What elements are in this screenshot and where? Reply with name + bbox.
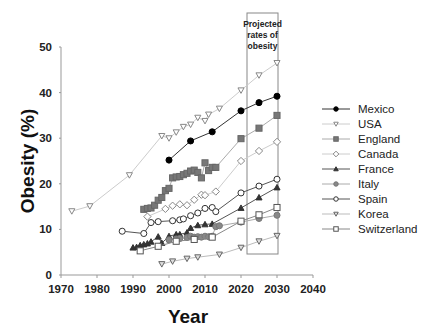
- marker-open-circle-icon: [238, 190, 244, 196]
- marker-open-square-icon: [137, 248, 143, 254]
- y-tick-label: 40: [39, 87, 52, 99]
- marker-open-diamond-icon: [255, 147, 262, 154]
- x-tick-label: 2020: [228, 283, 254, 295]
- marker-open-diamond-icon: [162, 205, 169, 212]
- marker-filled-circle-icon: [166, 157, 172, 163]
- marker-open-square-icon: [238, 218, 244, 224]
- marker-filled-triangle-icon: [148, 239, 154, 244]
- marker-open-circle-icon: [180, 216, 186, 222]
- marker-open-circle-icon: [202, 205, 208, 211]
- series-usa: [69, 61, 280, 215]
- marker-filled-circle-icon: [209, 129, 215, 135]
- y-tick-label: 0: [46, 269, 52, 281]
- marker-grey-circle-icon: [274, 212, 280, 218]
- legend: MexicoUSAEnglandCanadaFranceItalySpainKo…: [322, 103, 417, 235]
- marker-filled-circle-icon: [334, 107, 338, 111]
- legend-item-france: France: [322, 163, 394, 175]
- series-layer: [69, 61, 281, 268]
- x-axis-title: Year: [168, 306, 209, 327]
- marker-open-circle-icon: [274, 176, 280, 182]
- x-tick-label: 2030: [264, 283, 290, 295]
- marker-open-diamond-icon: [273, 138, 280, 145]
- marker-filled-square-icon: [213, 164, 219, 170]
- marker-grey-triangle-down-icon: [159, 262, 165, 267]
- x-tick-label: 2010: [192, 283, 218, 295]
- marker-filled-square-icon: [198, 175, 204, 181]
- marker-filled-triangle-icon: [334, 167, 338, 171]
- marker-filled-square-icon: [159, 194, 165, 200]
- legend-item-england: England: [322, 133, 400, 145]
- marker-grey-circle-icon: [216, 223, 222, 229]
- marker-open-diamond-icon: [169, 202, 176, 209]
- y-tick-label: 20: [39, 178, 52, 190]
- marker-filled-triangle-icon: [274, 184, 280, 189]
- legend-item-mexico: Mexico: [322, 103, 394, 115]
- marker-open-diamond-icon: [333, 151, 339, 157]
- marker-filled-circle-icon: [238, 108, 244, 114]
- marker-open-circle-icon: [256, 183, 262, 189]
- legend-label: Korea: [358, 208, 389, 220]
- marker-filled-triangle-icon: [238, 205, 244, 210]
- marker-filled-square-icon: [238, 136, 244, 142]
- marker-filled-square-icon: [202, 160, 208, 166]
- projected-label-line3: obesity: [248, 41, 278, 51]
- y-tick-label: 50: [39, 41, 52, 53]
- marker-open-circle-icon: [170, 218, 176, 224]
- marker-open-circle-icon: [195, 210, 201, 216]
- marker-open-triangle-down-icon: [202, 118, 208, 123]
- marker-open-square-icon: [334, 227, 338, 231]
- marker-filled-circle-icon: [188, 138, 194, 144]
- marker-filled-square-icon: [274, 112, 280, 118]
- x-tick-label: 1990: [120, 283, 146, 295]
- x-tick-label: 2040: [300, 283, 326, 295]
- legend-label: Canada: [358, 148, 399, 160]
- marker-open-square-icon: [173, 238, 179, 244]
- legend-item-italy: Italy: [322, 178, 379, 190]
- marker-open-square-icon: [191, 236, 197, 242]
- x-tick-label: 1980: [84, 283, 110, 295]
- marker-grey-circle-icon: [166, 237, 172, 243]
- marker-filled-square-icon: [256, 125, 262, 131]
- marker-open-triangle-down-icon: [69, 209, 75, 214]
- marker-filled-circle-icon: [256, 100, 262, 106]
- marker-open-triangle-down-icon: [206, 112, 212, 117]
- legend-label: USA: [358, 118, 382, 130]
- marker-open-triangle-down-icon: [334, 122, 338, 126]
- marker-filled-square-icon: [166, 185, 172, 191]
- x-tick-label: 2000: [156, 283, 182, 295]
- legend-label: France: [358, 163, 394, 175]
- legend-item-canada: Canada: [322, 148, 399, 160]
- marker-open-square-icon: [256, 212, 262, 218]
- legend-item-spain: Spain: [322, 193, 387, 205]
- marker-grey-circle-icon: [334, 182, 338, 186]
- marker-grey-triangle-down-icon: [334, 212, 338, 216]
- marker-open-square-icon: [274, 204, 280, 210]
- obesity-chart: Projected rates of obesity 0102030405019…: [0, 0, 427, 335]
- projected-label-line2: rates of: [247, 30, 278, 40]
- legend-label: Mexico: [358, 103, 394, 115]
- legend-label: Spain: [358, 193, 387, 205]
- marker-open-circle-icon: [155, 219, 161, 225]
- marker-open-triangle-down-icon: [166, 136, 172, 141]
- legend-item-korea: Korea: [322, 208, 389, 220]
- marker-open-diamond-icon: [176, 201, 183, 208]
- marker-filled-square-icon: [334, 137, 338, 141]
- y-tick-label: 30: [39, 132, 52, 144]
- marker-open-circle-icon: [334, 197, 338, 201]
- marker-filled-triangle-icon: [256, 194, 262, 199]
- marker-open-triangle-down-icon: [216, 106, 222, 111]
- marker-open-circle-icon: [188, 213, 194, 219]
- marker-open-square-icon: [155, 243, 161, 249]
- marker-open-square-icon: [209, 234, 215, 240]
- marker-open-circle-icon: [148, 220, 154, 226]
- legend-item-switzerland: Switzerland: [322, 223, 417, 235]
- series-line: [72, 63, 277, 211]
- marker-filled-triangle-icon: [155, 234, 161, 239]
- marker-filled-circle-icon: [274, 93, 280, 99]
- legend-label: Italy: [358, 178, 379, 190]
- marker-open-circle-icon: [141, 230, 147, 236]
- marker-open-circle-icon: [119, 228, 125, 234]
- y-axis-title: Obesity (%): [17, 109, 38, 214]
- marker-open-circle-icon: [213, 209, 219, 215]
- x-tick-label: 1970: [48, 283, 74, 295]
